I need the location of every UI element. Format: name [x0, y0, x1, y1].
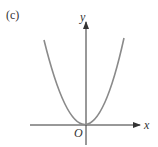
- y-axis-label: y: [79, 10, 86, 24]
- parabola-curve: [44, 38, 124, 125]
- parabola-diagram: (c) y x O: [0, 0, 158, 147]
- origin-label: O: [74, 126, 83, 140]
- x-axis-label: x: [143, 118, 150, 132]
- panel-label: (c): [6, 8, 19, 22]
